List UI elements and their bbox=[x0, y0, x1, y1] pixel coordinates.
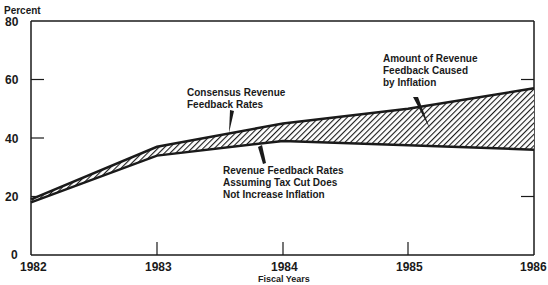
svg-text:1983: 1983 bbox=[145, 260, 172, 274]
svg-text:by Inflation: by Inflation bbox=[383, 77, 436, 88]
x-axis-label: Fiscal Years bbox=[258, 274, 310, 284]
svg-text:Amount of Revenue: Amount of Revenue bbox=[383, 53, 478, 64]
annotation-amount: Amount of Revenue Feedback Caused by Inf… bbox=[383, 53, 478, 88]
svg-text:1984: 1984 bbox=[271, 260, 298, 274]
svg-text:Assuming Tax Cut Does: Assuming Tax Cut Does bbox=[223, 177, 338, 188]
consensus-pointer bbox=[229, 110, 234, 133]
svg-text:60: 60 bbox=[5, 73, 19, 87]
svg-text:20: 20 bbox=[5, 190, 19, 204]
no-inflation-pointer bbox=[258, 145, 266, 164]
chart: Percent 80 60 40 20 0 1982 1983 1984 198… bbox=[0, 0, 548, 285]
x-ticks bbox=[157, 242, 408, 255]
y-tick-labels: 80 60 40 20 0 bbox=[5, 15, 19, 262]
annotation-consensus: Consensus Revenue Feedback Rates bbox=[187, 87, 286, 110]
svg-text:Feedback Caused: Feedback Caused bbox=[383, 65, 468, 76]
svg-text:40: 40 bbox=[5, 132, 19, 146]
svg-text:Feedback Rates: Feedback Rates bbox=[187, 99, 264, 110]
svg-text:Not Increase Inflation: Not Increase Inflation bbox=[223, 189, 325, 200]
svg-text:80: 80 bbox=[5, 15, 19, 29]
svg-text:1986: 1986 bbox=[520, 260, 547, 274]
svg-text:1985: 1985 bbox=[396, 260, 423, 274]
annotation-no-inflation: Revenue Feedback Rates Assuming Tax Cut … bbox=[223, 165, 344, 200]
x-tick-labels: 1982 1983 1984 1985 1986 bbox=[20, 260, 547, 274]
svg-text:Revenue Feedback Rates: Revenue Feedback Rates bbox=[223, 165, 344, 176]
svg-text:Consensus Revenue: Consensus Revenue bbox=[187, 87, 286, 98]
svg-text:0: 0 bbox=[11, 248, 18, 262]
svg-text:1982: 1982 bbox=[20, 260, 47, 274]
